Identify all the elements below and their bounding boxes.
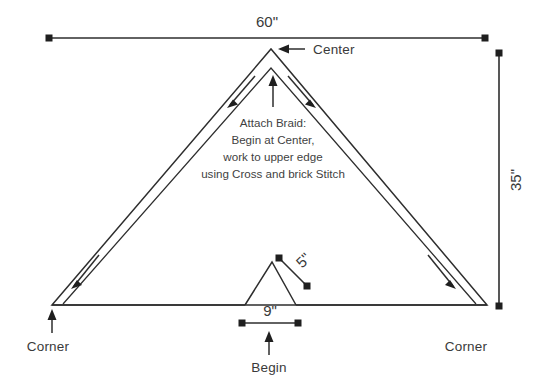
begin-callout: Begin [251,331,287,375]
shawl-inner-braid-line [63,68,476,304]
braid-arrow-left-lower [71,255,99,289]
center-callout-arrowhead [278,45,289,54]
height-dimension-top-endpoint [496,50,503,57]
width-dimension-left-endpoint [46,35,53,42]
notch-base-dimension-label: 9" [263,302,277,319]
diagram-canvas: 60" 35" [0,0,546,390]
notch-side-dimension-label: 5" [292,249,314,271]
note-line-4: using Cross and brick Stitch [201,167,345,180]
braid-direction-arrows [71,75,456,289]
center-label: Center [313,42,355,57]
braid-arrow-right-lower [428,255,456,289]
corner-right-callout: Corner [445,339,488,354]
notch-base-dimension-left-endpoint [239,320,246,327]
height-dimension-label: 35" [507,169,524,191]
corner-left-callout: Corner [27,309,70,354]
width-dimension-label: 60" [256,13,278,30]
braid-arrow-center-up [269,75,278,107]
note-line-2: Begin at Center, [231,133,314,146]
braid-arrow-left-upper [227,76,255,108]
corner-left-label: Corner [27,339,70,354]
center-callout: Center [278,42,355,57]
begin-callout-arrowhead [265,331,274,342]
attach-braid-note: Attach Braid: Begin at Center, work to u… [201,116,345,180]
corner-left-callout-arrowhead [48,309,57,320]
width-dimension-right-endpoint [482,35,489,42]
note-line-1: Attach Braid: [240,116,306,129]
height-dimension-bottom-endpoint [496,303,503,310]
notch-side-dimension: 5" [276,249,314,289]
width-dimension: 60" [46,13,489,42]
notch-side-dimension-bottom-endpoint [304,283,311,290]
corner-right-label: Corner [445,339,488,354]
diagram-svg: 60" 35" [0,0,546,390]
notch-side-dimension-top-endpoint [276,255,283,262]
notch-base-dimension-right-endpoint [295,320,302,327]
begin-label: Begin [251,360,287,375]
note-line-3: work to upper edge [222,150,322,163]
height-dimension: 35" [496,50,525,310]
